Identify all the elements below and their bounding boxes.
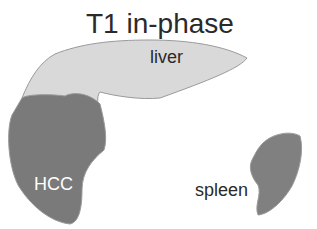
liver-label: liver xyxy=(150,47,183,68)
hcc-label: HCC xyxy=(34,174,73,195)
diagram-title: T1 in-phase xyxy=(86,8,234,40)
spleen-label: spleen xyxy=(195,180,248,201)
spleen-shape xyxy=(250,133,301,215)
hcc-shape xyxy=(9,94,106,224)
